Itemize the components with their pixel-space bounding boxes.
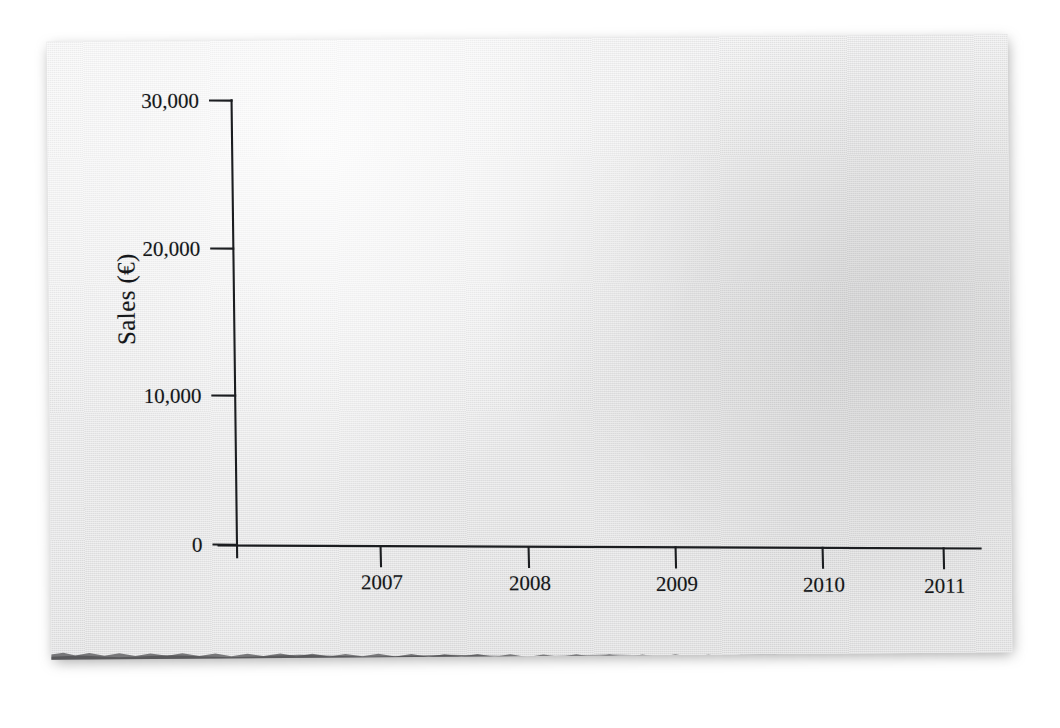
chart-axes-svg xyxy=(47,34,1013,660)
y-tick-0 xyxy=(214,544,238,545)
x-tick-label-2009: 2009 xyxy=(632,571,722,597)
y-axis-title: Sales (€) xyxy=(112,209,141,389)
paper-sheet: Sales (€) 30,000 20,000 10,000 0 2007 20… xyxy=(47,34,1013,660)
x-tick-label-2010: 2010 xyxy=(779,572,869,598)
y-axis-line xyxy=(232,100,238,557)
x-tick-label-2011: 2011 xyxy=(900,573,990,599)
y-tick-label-10000: 10,000 xyxy=(97,384,201,410)
y-tick-label-30000: 30,000 xyxy=(95,89,199,115)
screenshot-root: Sales (€) 30,000 20,000 10,000 0 2007 20… xyxy=(0,0,1060,728)
x-axis-line xyxy=(219,539,981,554)
y-tick-label-0: 0 xyxy=(98,533,202,559)
y-tick-label-20000: 20,000 xyxy=(96,237,200,263)
paper-lighting-gradient xyxy=(47,34,1013,660)
x-tick-label-2007: 2007 xyxy=(337,570,427,596)
sales-chart: Sales (€) 30,000 20,000 10,000 0 2007 20… xyxy=(47,34,1013,660)
plot-area xyxy=(233,94,980,546)
paper-texture xyxy=(47,34,1013,660)
x-tick-label-2008: 2008 xyxy=(485,571,575,597)
